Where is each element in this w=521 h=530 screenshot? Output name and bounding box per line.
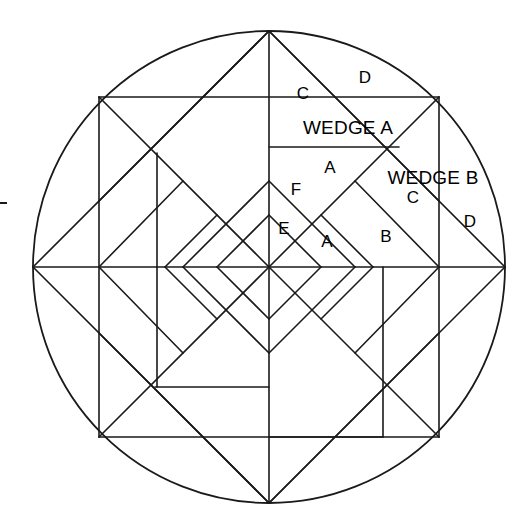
piece-label-a-inner-e: E <box>278 220 289 237</box>
quilt-wedge-diagram <box>0 0 521 530</box>
piece-label-a-top-c: C <box>297 85 309 102</box>
quadrant-se <box>269 267 439 503</box>
margin-tick-mark <box>0 202 7 204</box>
quadrant-ne <box>269 31 439 267</box>
piece-label-b-inner-b: B <box>380 228 391 245</box>
piece-label-a-inner-a: A <box>324 159 335 176</box>
wedge-a-label: WEDGE A <box>303 118 393 137</box>
quadrant-sw <box>99 267 269 503</box>
piece-label-b-outer-d: D <box>464 213 476 230</box>
piece-label-a-top-d: D <box>359 69 371 86</box>
piece-label-a-lower-a: A <box>321 233 332 250</box>
piece-label-a-inner-f: F <box>291 181 301 198</box>
diagram-canvas: WEDGE A WEDGE B C D A F E A B C D <box>0 0 521 530</box>
piece-label-b-inner-c: C <box>407 189 419 206</box>
quadrant-nw <box>99 31 269 267</box>
wedge-b-label: WEDGE B <box>387 168 478 187</box>
